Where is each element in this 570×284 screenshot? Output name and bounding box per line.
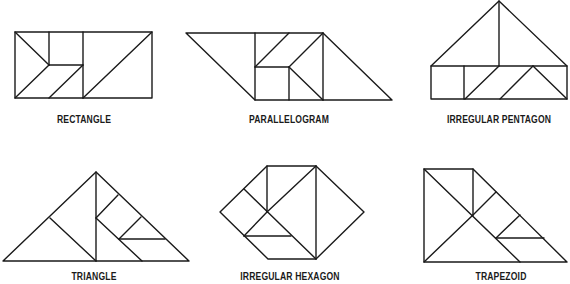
label-irregular-hexagon: IRREGULAR HEXAGON [228,270,353,282]
label-parallelogram: PARALLELOGRAM [227,113,352,125]
trapezoid-tangram [424,169,567,262]
hexagon-tangram [220,166,364,259]
tangram-figure [0,0,570,284]
pentagon-tangram [431,1,567,99]
parallelogram-tangram [186,33,392,100]
label-rectangle: RECTANGLE [22,113,147,125]
triangle-tangram [3,172,189,261]
label-triangle: TRIANGLE [32,270,157,282]
rectangle-tangram [15,32,152,98]
label-trapezoid: TRAPEZOID [439,270,564,282]
label-irregular-pentagon: IRREGULAR PENTAGON [437,113,562,125]
